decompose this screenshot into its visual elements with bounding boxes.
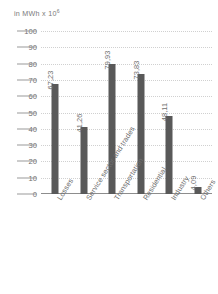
y-axis-unit-caption: in MWh x 106 — [14, 9, 60, 18]
bar-series: 67,2341,2679,9373,8348,114,09 — [41, 31, 212, 194]
y-axis-tick-rule — [17, 47, 37, 48]
bar-slot: 41,26 — [70, 31, 99, 194]
bar[interactable] — [109, 64, 116, 194]
bar[interactable] — [52, 84, 59, 194]
bar-chart: in MWh x 106 1009080706050403020100 67,2… — [0, 0, 218, 294]
y-axis-unit-exponent: 6 — [57, 8, 60, 14]
y-axis-tick-rule — [17, 112, 37, 113]
bar-value-label: 73,83 — [132, 60, 141, 79]
y-axis-tick-rule — [17, 96, 37, 97]
bar-slot: 4,09 — [184, 31, 213, 194]
x-axis-category-labels: LossesService sector and tradesTransport… — [41, 197, 212, 292]
y-axis-tick-rule — [17, 79, 37, 80]
bar-value-label: 48,11 — [160, 102, 169, 120]
bar[interactable] — [137, 74, 144, 194]
y-axis-tick-rule — [17, 194, 37, 195]
plot-area: 1009080706050403020100 67,2341,2679,9373… — [41, 31, 212, 194]
y-axis-tick-rule — [17, 63, 37, 64]
bar[interactable] — [80, 127, 87, 194]
y-axis-tick-rule — [17, 177, 37, 178]
y-axis-unit-text: in MWh x 10 — [14, 9, 57, 18]
y-axis-tick-rule — [17, 31, 37, 32]
bar-value-label: 41,26 — [75, 113, 84, 132]
bar-slot: 67,23 — [41, 31, 70, 194]
bar-value-label: 79,93 — [103, 50, 112, 69]
y-axis-tick-rule — [17, 145, 37, 146]
bar[interactable] — [166, 116, 173, 194]
bar-value-label: 67,23 — [46, 71, 55, 90]
y-axis-tick-rule — [17, 128, 37, 129]
y-axis-tick-rule — [17, 161, 37, 162]
